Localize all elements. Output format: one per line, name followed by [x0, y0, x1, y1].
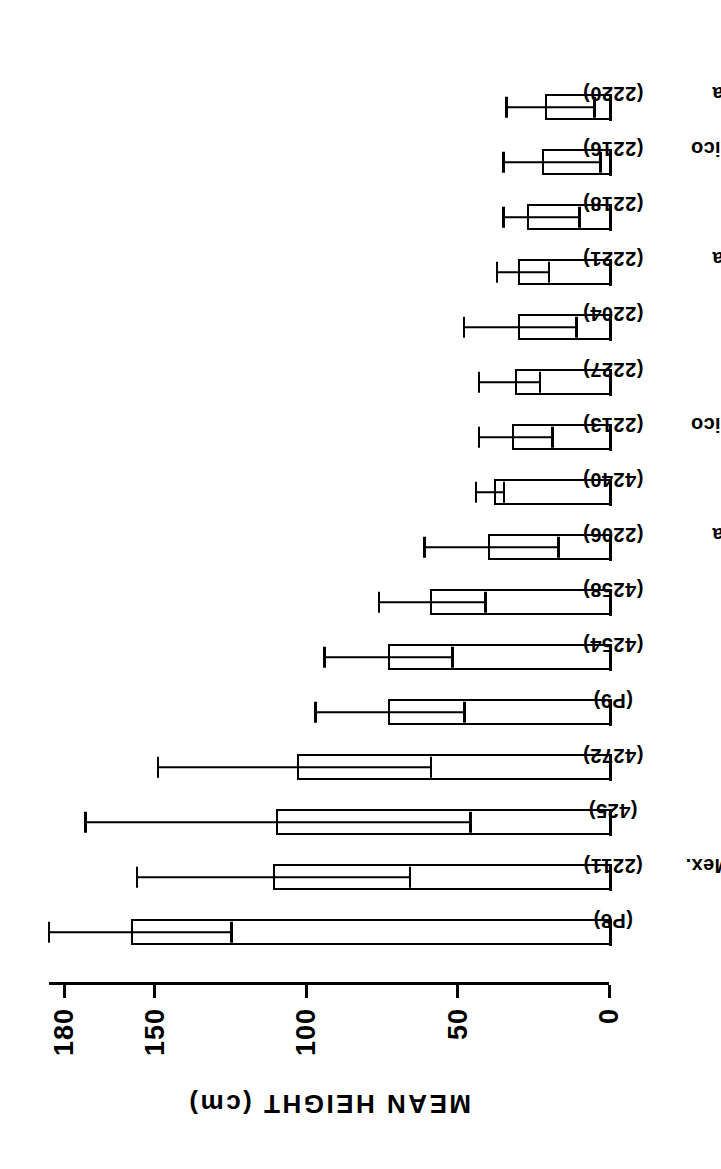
- category-cell: (425)P. alba: [609, 794, 721, 849]
- error-cap-top: [377, 592, 380, 613]
- category-cell: (4272)P. alba: [609, 739, 721, 794]
- category-code-label: (425): [588, 799, 637, 822]
- category-code-label: (2204): [582, 302, 643, 325]
- error-bar-2218: [502, 216, 581, 219]
- bar-slot: [49, 465, 609, 520]
- category-code-label: (P9): [593, 688, 633, 711]
- error-cap-top: [423, 537, 426, 558]
- category-code-label: (4272): [582, 743, 643, 766]
- category-cell: (2218)P. spp. Texas: [609, 187, 721, 242]
- category-cell: (2213)P. spp. New Mexico: [609, 408, 721, 463]
- category-cell: (2206)P. spp. Arizona: [609, 518, 721, 573]
- locality-name: Arizona: [712, 82, 721, 104]
- error-cap-top: [323, 647, 326, 668]
- y-tick-label-180: 180: [50, 1008, 77, 1056]
- locality-name: Sonora, Mex.: [685, 855, 721, 877]
- category-cell: (2211)P. spp. Sonora, Mex.: [609, 849, 721, 904]
- category-name-label: P. spp. Arizona: [712, 523, 721, 546]
- bar-slot: [49, 410, 609, 465]
- error-cap-bottom: [429, 757, 432, 778]
- plot-area: MEAN HEIGHT (cm) 050100150180: [49, 80, 609, 985]
- error-bar-P9: [314, 711, 465, 714]
- category-cell: (P9)P. chilensis: [609, 684, 721, 739]
- bar-425: [276, 809, 609, 835]
- category-cell: (2220)P. spp. Arizona: [609, 77, 721, 132]
- category-axis-labels: (P8)P. chilensis(2211)P. spp. Sonora, Me…: [609, 77, 721, 982]
- error-cap-top: [474, 482, 477, 503]
- bar-slot: [49, 135, 609, 190]
- error-bar-2204: [462, 326, 577, 329]
- y-tick-50: 50: [456, 985, 459, 998]
- category-code-label: (2206): [582, 523, 643, 546]
- error-bar-2213: [477, 436, 553, 439]
- error-cap-bottom: [469, 812, 472, 833]
- y-tick-180: 180: [62, 985, 65, 998]
- error-cap-bottom: [575, 317, 578, 338]
- category-name-label: P. spp. Arizona: [712, 247, 721, 270]
- error-cap-top: [477, 372, 480, 393]
- error-cap-top: [156, 757, 159, 778]
- error-cap-bottom: [551, 427, 554, 448]
- error-cap-top: [462, 317, 465, 338]
- error-cap-bottom: [502, 482, 505, 503]
- locality-name: Arizona: [712, 524, 721, 546]
- category-code-label: (2216): [582, 136, 643, 159]
- error-cap-top: [314, 702, 317, 723]
- bar-slot: [49, 850, 609, 905]
- category-code-label: (2221): [582, 247, 643, 270]
- y-tick-100: 100: [304, 985, 307, 998]
- category-cell: (2204)P. spp.: [609, 297, 721, 352]
- figure-page: MEAN HEIGHT (cm) 050100150180 (P8)P. chi…: [0, 0, 721, 1169]
- y-axis-title: MEAN HEIGHT (cm): [186, 1087, 470, 1118]
- locality-name: New Mexico: [690, 137, 721, 159]
- bar-slot: [49, 685, 609, 740]
- error-bar-2211: [135, 876, 410, 879]
- error-bar-4272: [156, 766, 431, 769]
- bar-slot: [49, 795, 609, 850]
- error-cap-top: [135, 867, 138, 888]
- category-name-label: P. spp. New Mexico: [690, 136, 721, 159]
- error-cap-top: [502, 207, 505, 228]
- category-cell: (4258)P. nigra: [609, 573, 721, 628]
- bar-slot: [49, 300, 609, 355]
- error-bar-2216: [502, 161, 602, 164]
- bar-4254: [388, 644, 609, 670]
- error-cap-bottom: [230, 922, 233, 943]
- category-cell: (P8)P. chilensis: [609, 904, 721, 959]
- error-cap-bottom: [557, 537, 560, 558]
- y-tick-label-150: 150: [141, 1008, 168, 1056]
- error-bar-4258: [377, 601, 486, 604]
- bar-P8: [130, 919, 608, 945]
- category-code-label: (2213): [582, 412, 643, 435]
- error-cap-top: [495, 262, 498, 283]
- error-cap-top: [47, 922, 50, 943]
- error-bar-425: [84, 821, 471, 824]
- y-tick-label-50: 50: [444, 1008, 471, 1040]
- category-code-label: (2211): [583, 854, 643, 877]
- error-bar-2206: [423, 546, 559, 549]
- category-code-label: (4240): [582, 467, 643, 490]
- error-bar-P8: [47, 931, 232, 934]
- category-name-label: P. spp. New Mexico: [690, 412, 721, 435]
- error-cap-top: [502, 152, 505, 173]
- error-cap-bottom: [408, 867, 411, 888]
- error-bar-4254: [323, 656, 453, 659]
- bar-slot: [49, 740, 609, 795]
- category-cell: (2227)P. velutina: [609, 352, 721, 407]
- category-name-label: P. spp. Sonora, Mex.: [685, 854, 721, 877]
- category-code-label: (4258): [582, 578, 643, 601]
- bar-slot: [49, 80, 609, 135]
- error-cap-top: [477, 427, 480, 448]
- error-cap-bottom: [578, 207, 581, 228]
- error-bar-4240: [474, 491, 504, 494]
- error-bar-2227: [477, 381, 541, 384]
- error-cap-bottom: [463, 702, 466, 723]
- error-cap-bottom: [484, 592, 487, 613]
- y-tick-150: 150: [153, 985, 156, 998]
- bar-2211: [273, 864, 609, 890]
- category-code-label: (2220): [582, 81, 643, 104]
- bar-slot: [49, 575, 609, 630]
- bar-slot: [49, 355, 609, 410]
- category-cell: (2216)P. spp. New Mexico: [609, 132, 721, 187]
- bar-slot: [49, 520, 609, 575]
